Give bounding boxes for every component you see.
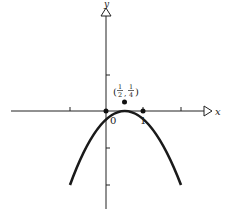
- svg-text:1: 1: [129, 83, 133, 91]
- svg-text:4: 4: [129, 91, 133, 99]
- vertex-label: ( 1 2 , 1 4 ): [113, 83, 139, 99]
- x-axis-label: x: [215, 106, 221, 117]
- one-label: 1: [140, 115, 146, 126]
- svg-text:,: ,: [124, 89, 127, 98]
- origin-label: 0: [110, 115, 116, 126]
- point-vertex: [122, 100, 127, 105]
- svg-text:): ): [135, 86, 139, 97]
- point-one: [141, 109, 146, 114]
- x-axis-arrow-icon: [204, 106, 212, 116]
- y-axis-arrow-icon: [101, 8, 111, 16]
- parabola-graph: x y 0 1 ( 1 2 , 1 4 ): [0, 0, 225, 220]
- y-axis-label: y: [103, 0, 110, 9]
- point-origin: [104, 109, 109, 114]
- svg-text:(: (: [113, 86, 117, 97]
- svg-text:2: 2: [118, 91, 122, 99]
- svg-text:1: 1: [118, 83, 122, 91]
- parabola-curve: [70, 111, 181, 185]
